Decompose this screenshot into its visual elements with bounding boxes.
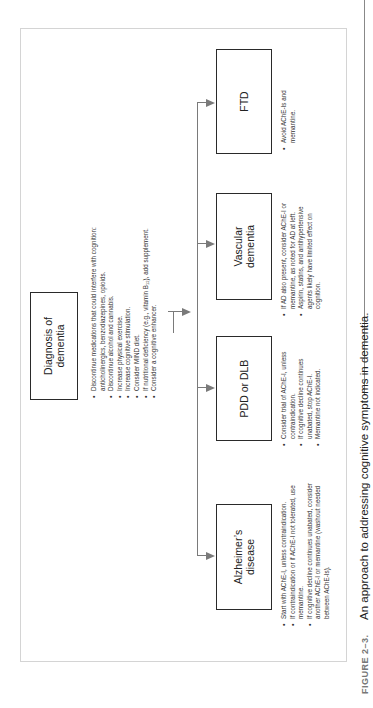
list-item: Discontinue alcohol and cannabis.: [107, 138, 116, 398]
arrowhead-icon: [206, 384, 215, 392]
list-item: If cognitive decline continues unabated,…: [306, 476, 332, 626]
alzheimers-title-line2: disease: [244, 530, 256, 584]
figure-label: FIGURE 2–3.: [360, 634, 370, 694]
general-measures-list: Discontinue medications that could inter…: [90, 138, 159, 398]
pdd-dlb-title: PDD or DLB: [238, 360, 250, 418]
list-item: If contraindication or if AChE-I not tol…: [289, 476, 306, 626]
list-item: Increase physical exercise.: [116, 138, 125, 398]
pdd-dlb-list: Consider trial of AChE-I, unless contrai…: [280, 336, 323, 446]
list-item: If nutritional deficiency (e.g., vitamin…: [142, 138, 151, 398]
connector-right: [173, 311, 174, 333]
arrowhead-icon: [206, 99, 215, 107]
vascular-title-line1: Vascular: [232, 225, 244, 268]
diagnosis-title-line1: Diagnosis of: [42, 317, 54, 375]
branch-trunk: [197, 102, 198, 556]
diagnosis-title-line2: dementia: [54, 317, 66, 375]
list-item: Aspirin, statins, and antihypertensive a…: [297, 186, 323, 316]
diagnosis-box: Diagnosis of dementia: [30, 292, 78, 400]
vascular-title-line2: dementia: [244, 225, 256, 268]
alzheimers-box: Alzheimer’s disease: [216, 504, 272, 610]
arrowhead-icon: [206, 552, 215, 560]
list-item: Consider trial of AChE-I, unless contrai…: [280, 336, 297, 446]
arrowhead-icon: [182, 308, 191, 316]
alzheimers-list: Start with AChE-I, unless contraindicati…: [280, 476, 332, 626]
list-item: Avoid AChE-Is and memantine.: [280, 58, 297, 150]
ftd-list: Avoid AChE-Is and memantine.: [280, 58, 297, 150]
list-item: Increase cognitive stimulation.: [124, 138, 133, 398]
alzheimers-title-line1: Alzheimer’s: [232, 530, 244, 584]
vascular-list: If AD also present, consider AChE-I or m…: [280, 186, 323, 316]
ftd-box: FTD: [216, 49, 272, 154]
pdd-dlb-box: PDD or DLB: [216, 336, 272, 441]
list-item: Consider a cognitive enhancer.: [150, 138, 159, 398]
figure-caption-text: An approach to addressing cognitive symp…: [358, 313, 370, 620]
list-item: Consider MIND diet.: [133, 138, 142, 398]
list-item: If cognitive decline continues unabated,…: [297, 336, 314, 446]
list-item: Start with AChE-I, unless contraindicati…: [280, 476, 289, 626]
figure-caption: FIGURE 2–3. An approach to addressing co…: [354, 274, 372, 694]
arrowhead-icon: [206, 240, 215, 248]
list-item: Discontinue medications that could inter…: [90, 191, 107, 398]
list-item: Memantine not indicated.: [314, 336, 323, 446]
vascular-box: Vascular dementia: [216, 193, 272, 300]
rotated-figure: Diagnosis of dementia Discontinue medica…: [0, 0, 373, 708]
list-item: If AD also present, consider AChE-I or m…: [280, 186, 297, 316]
ftd-title: FTD: [238, 91, 250, 111]
